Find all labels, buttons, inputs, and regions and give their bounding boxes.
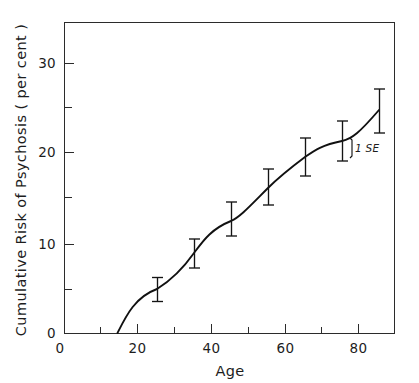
error-bar-age-65 xyxy=(300,138,311,176)
x-tick-label-20: 20 xyxy=(129,340,147,356)
y-tick-label-20: 20 xyxy=(38,144,56,160)
x-tick-label-80: 80 xyxy=(350,340,368,356)
y-tick-labels: 30 20 10 0 xyxy=(38,55,56,341)
error-bar-age-85 xyxy=(374,89,385,133)
x-tick-labels: 0 20 40 60 80 xyxy=(56,340,368,356)
error-bars-group xyxy=(152,89,385,302)
x-tick-label-60: 60 xyxy=(277,340,295,356)
se-bracket-icon xyxy=(350,138,352,158)
x-tick-label-0: 0 xyxy=(56,340,65,356)
plot-frame xyxy=(65,22,396,334)
x-axis-ticks xyxy=(101,324,395,334)
y-axis-title: Cumulative Risk of Psychosis ( per cent … xyxy=(13,24,29,336)
risk-curve-line xyxy=(118,110,380,333)
se-annotation-label: 1 SE xyxy=(355,142,380,154)
x-axis-title: Age xyxy=(215,363,244,379)
chart-figure: 1 SE 30 20 10 0 0 20 40 60 80 Age Cumula… xyxy=(0,0,419,383)
y-tick-label-10: 10 xyxy=(38,236,56,252)
y-tick-label-30: 30 xyxy=(38,55,56,71)
error-bar-age-55 xyxy=(263,169,274,205)
cumulative-risk-line-chart: 1 SE 30 20 10 0 0 20 40 60 80 Age Cumula… xyxy=(0,0,419,383)
y-tick-label-0: 0 xyxy=(47,325,56,341)
error-bar-age-35 xyxy=(189,239,200,268)
one-se-annotation: 1 SE xyxy=(350,138,380,158)
x-tick-label-40: 40 xyxy=(203,340,221,356)
y-axis-ticks xyxy=(65,23,75,290)
